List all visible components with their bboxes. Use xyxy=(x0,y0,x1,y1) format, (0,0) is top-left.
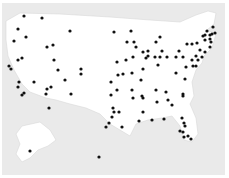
location-marker-icon[interactable] xyxy=(198,48,201,51)
location-marker-icon[interactable] xyxy=(79,67,82,70)
location-marker-icon[interactable] xyxy=(47,106,50,109)
location-marker-icon[interactable] xyxy=(150,118,153,121)
location-marker-icon[interactable] xyxy=(164,90,167,93)
location-marker-icon[interactable] xyxy=(203,38,206,41)
location-marker-icon[interactable] xyxy=(63,78,66,81)
location-marker-icon[interactable] xyxy=(182,121,185,124)
location-marker-icon[interactable] xyxy=(181,130,184,133)
location-marker-icon[interactable] xyxy=(208,37,211,40)
location-marker-icon[interactable] xyxy=(156,63,159,66)
location-marker-icon[interactable] xyxy=(44,92,47,95)
location-marker-icon[interactable] xyxy=(16,58,19,61)
location-marker-icon[interactable] xyxy=(109,80,112,83)
location-marker-icon[interactable] xyxy=(131,96,134,99)
location-marker-icon[interactable] xyxy=(40,16,43,19)
location-marker-icon[interactable] xyxy=(97,155,100,158)
location-marker-icon[interactable] xyxy=(144,56,147,59)
location-marker-icon[interactable] xyxy=(7,64,10,67)
location-marker-icon[interactable] xyxy=(9,67,12,70)
location-marker-icon[interactable] xyxy=(195,41,198,44)
location-marker-icon[interactable] xyxy=(116,73,119,76)
location-marker-icon[interactable] xyxy=(154,88,157,91)
location-marker-icon[interactable] xyxy=(178,129,181,132)
location-marker-icon[interactable] xyxy=(203,33,206,36)
location-marker-icon[interactable] xyxy=(146,49,149,52)
location-marker-icon[interactable] xyxy=(112,110,115,113)
location-marker-icon[interactable] xyxy=(69,92,72,95)
location-marker-icon[interactable] xyxy=(124,58,127,61)
location-marker-icon[interactable] xyxy=(22,91,25,94)
location-marker-icon[interactable] xyxy=(56,68,59,71)
location-marker-icon[interactable] xyxy=(177,49,180,52)
location-marker-icon[interactable] xyxy=(45,45,48,48)
location-marker-icon[interactable] xyxy=(186,134,189,137)
location-marker-icon[interactable] xyxy=(181,55,184,58)
location-marker-icon[interactable] xyxy=(115,88,118,91)
location-marker-icon[interactable] xyxy=(183,77,186,80)
location-marker-icon[interactable] xyxy=(174,71,177,74)
location-marker-icon[interactable] xyxy=(158,55,161,58)
location-marker-icon[interactable] xyxy=(182,135,185,138)
location-marker-icon[interactable] xyxy=(191,64,194,67)
location-marker-icon[interactable] xyxy=(137,119,140,122)
location-marker-icon[interactable] xyxy=(131,55,134,58)
location-marker-icon[interactable] xyxy=(208,45,211,48)
location-marker-icon[interactable] xyxy=(117,110,120,113)
location-marker-icon[interactable] xyxy=(109,93,112,96)
location-marker-icon[interactable] xyxy=(189,137,192,140)
location-marker-icon[interactable] xyxy=(158,35,161,38)
location-marker-icon[interactable] xyxy=(68,29,71,32)
location-marker-icon[interactable] xyxy=(205,29,208,32)
location-marker-icon[interactable] xyxy=(210,32,213,35)
location-marker-icon[interactable] xyxy=(141,50,144,53)
location-marker-icon[interactable] xyxy=(141,67,144,70)
location-marker-icon[interactable] xyxy=(115,60,118,63)
location-marker-icon[interactable] xyxy=(52,58,55,61)
location-marker-icon[interactable] xyxy=(174,55,177,58)
location-marker-icon[interactable] xyxy=(111,106,114,109)
location-marker-icon[interactable] xyxy=(12,39,15,42)
location-marker-icon[interactable] xyxy=(153,55,156,58)
location-marker-icon[interactable] xyxy=(196,58,199,61)
location-marker-icon[interactable] xyxy=(190,58,193,61)
location-marker-icon[interactable] xyxy=(181,94,184,97)
location-marker-icon[interactable] xyxy=(209,40,212,43)
location-marker-icon[interactable] xyxy=(129,29,132,32)
location-marker-icon[interactable] xyxy=(141,96,144,99)
location-marker-icon[interactable] xyxy=(166,98,169,101)
location-marker-icon[interactable] xyxy=(194,54,197,57)
location-marker-icon[interactable] xyxy=(134,45,137,48)
location-marker-icon[interactable] xyxy=(120,125,123,128)
location-marker-icon[interactable] xyxy=(160,49,163,52)
location-marker-icon[interactable] xyxy=(32,80,35,83)
location-marker-icon[interactable] xyxy=(200,55,203,58)
location-marker-icon[interactable] xyxy=(184,65,187,68)
location-marker-icon[interactable] xyxy=(183,124,186,127)
location-marker-icon[interactable] xyxy=(17,80,20,83)
location-marker-icon[interactable] xyxy=(28,149,31,152)
location-marker-icon[interactable] xyxy=(49,85,52,88)
location-marker-icon[interactable] xyxy=(194,64,197,67)
location-marker-icon[interactable] xyxy=(104,125,107,128)
location-marker-icon[interactable] xyxy=(170,103,173,106)
location-marker-icon[interactable] xyxy=(112,30,115,33)
location-marker-icon[interactable] xyxy=(130,88,133,91)
location-marker-icon[interactable] xyxy=(130,71,133,74)
location-marker-icon[interactable] xyxy=(155,100,158,103)
location-marker-icon[interactable] xyxy=(141,110,144,113)
location-marker-icon[interactable] xyxy=(139,78,142,81)
location-marker-icon[interactable] xyxy=(51,43,54,46)
location-marker-icon[interactable] xyxy=(16,85,19,88)
location-marker-icon[interactable] xyxy=(132,40,135,43)
location-marker-icon[interactable] xyxy=(125,40,128,43)
location-marker-icon[interactable] xyxy=(45,87,48,90)
location-marker-icon[interactable] xyxy=(79,72,82,75)
location-marker-icon[interactable] xyxy=(24,35,27,38)
location-marker-icon[interactable] xyxy=(203,50,206,53)
location-marker-icon[interactable] xyxy=(16,27,19,30)
location-marker-icon[interactable] xyxy=(107,121,110,124)
location-marker-icon[interactable] xyxy=(211,25,214,28)
location-marker-icon[interactable] xyxy=(121,72,124,75)
location-marker-icon[interactable] xyxy=(213,31,216,34)
location-marker-icon[interactable] xyxy=(110,115,113,118)
